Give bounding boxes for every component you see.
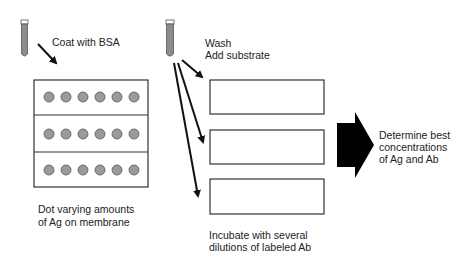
incubate-label-line-1: Incubate with several (209, 229, 308, 241)
determine-label-line-1: Determine best (379, 129, 450, 141)
strip-3 (210, 179, 324, 214)
membrane (34, 80, 148, 187)
wash-label: Wash (205, 37, 231, 49)
result-block-arrow-icon (337, 112, 374, 178)
incubate-label-line-2: dilutions of labeled Ab (209, 241, 311, 253)
add-substrate-label: Add substrate (205, 49, 270, 61)
determine-label-line-3: of Ag and Ab (379, 153, 439, 165)
coat-label: Coat with BSA (52, 36, 120, 48)
determine-label-line-2: concentrations (379, 141, 447, 153)
test-tube-bsa-icon (21, 20, 28, 56)
dot-label-line-1: Dot varying amounts (38, 203, 134, 215)
dot-label-line-2: of Ag on membrane (38, 216, 130, 228)
test-tube-antibody-icon (166, 20, 174, 56)
strip-1 (210, 80, 324, 114)
arrow-to-strip-1-icon (182, 60, 202, 77)
strip-2 (210, 130, 324, 164)
arrow-to-strip-3-icon (174, 63, 198, 196)
